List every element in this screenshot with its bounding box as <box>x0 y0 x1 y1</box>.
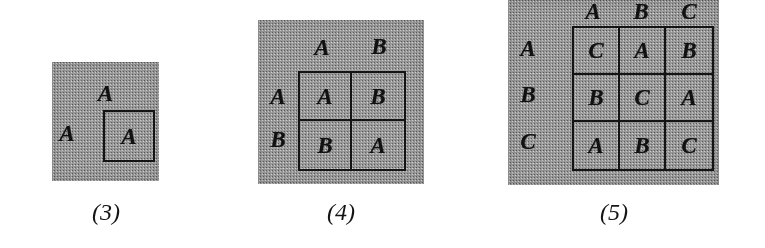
fig5-cell-r1c1: C <box>620 75 666 122</box>
fig4-cell-value-r1c1: A <box>370 134 385 157</box>
fig5-cell-r2c1: B <box>620 122 666 169</box>
fig4-caption: (4) <box>295 200 387 224</box>
fig4-row-header-a: A <box>266 85 290 108</box>
fig3-table-grid: A <box>103 110 155 162</box>
fig5-cell-value-r0c2: B <box>681 39 696 62</box>
fig4-row-header-b: B <box>266 128 290 151</box>
fig4-cell-r0c0: A <box>300 73 352 121</box>
fig4-column-header-b: B <box>362 35 396 58</box>
fig4-table-grid: A B B A <box>298 71 406 171</box>
fig4-cell-r1c1: A <box>352 121 404 169</box>
fig5-row-header-a: A <box>516 37 540 60</box>
fig3-caption: (3) <box>60 200 152 224</box>
fig4-cell-r0c1: B <box>352 73 404 121</box>
fig4-column-header-a: A <box>305 36 339 59</box>
figure-container: A A A (3) A B A B A B B A (4) A B C A B … <box>0 0 765 248</box>
fig4-cell-value-r0c1: B <box>370 85 385 108</box>
fig3-cell-r0c0: A <box>105 112 153 160</box>
fig5-table-grid: C A B B C A A B C <box>572 26 714 171</box>
fig5-cell-value-r0c0: C <box>588 39 603 62</box>
fig4-cell-value-r1c0: B <box>317 134 332 157</box>
fig5-cell-value-r0c1: A <box>634 39 649 62</box>
fig5-cell-r2c0: A <box>574 122 620 169</box>
fig3-column-header-a: A <box>52 82 159 105</box>
fig5-column-header-a: A <box>578 0 608 23</box>
fig5-row-header-b: B <box>516 83 540 106</box>
fig5-cell-value-r2c1: B <box>634 134 649 157</box>
fig5-cell-r2c2: C <box>666 122 712 169</box>
fig5-column-header-b: B <box>626 0 656 23</box>
fig5-cell-value-r2c2: C <box>681 134 696 157</box>
fig5-caption: (5) <box>568 200 660 224</box>
fig5-cell-value-r2c0: A <box>588 134 603 157</box>
fig5-column-header-c: C <box>674 0 704 23</box>
fig5-cell-r1c0: B <box>574 75 620 122</box>
fig5-cell-r0c0: C <box>574 28 620 75</box>
fig5-cell-value-r1c0: B <box>588 86 603 109</box>
fig3-cell-value-r0c0: A <box>121 125 136 148</box>
fig5-row-header-c: C <box>516 130 540 153</box>
fig5-cell-r1c2: A <box>666 75 712 122</box>
fig5-cell-r0c1: A <box>620 28 666 75</box>
fig3-row-header-a: A <box>56 122 78 145</box>
fig5-cell-value-r1c1: C <box>634 86 649 109</box>
fig5-cell-r0c2: B <box>666 28 712 75</box>
fig5-cell-value-r1c2: A <box>681 86 696 109</box>
fig4-cell-value-r0c0: A <box>317 85 332 108</box>
fig4-cell-r1c0: B <box>300 121 352 169</box>
